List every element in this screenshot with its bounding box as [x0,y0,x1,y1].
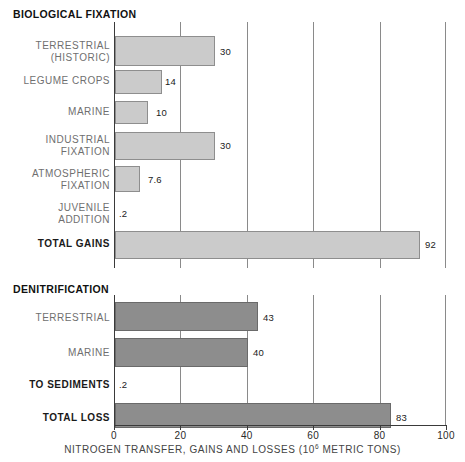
bar-value-label: 14 [165,76,176,87]
x-axis-tick-label: 20 [175,430,187,441]
bar-row-label: ATMOSPHERIC FIXATION [0,168,110,191]
bar-terrestrial-historic [115,36,215,66]
bar-legume-crops [115,70,162,94]
bar-row-label: MARINE [0,347,110,359]
bar-value-label: 30 [220,140,231,151]
section-header-biological-fixation: BIOLOGICAL FIXATION [13,8,137,20]
gridline-100 [445,295,446,425]
bar-terrestrial-denitrification [115,302,258,331]
x-axis-tick-label: 100 [437,430,455,441]
section-header-denitrification: DENITRIFICATION [13,283,109,295]
bar-total-gains [115,231,420,259]
bar-row-label: TERRESTRIAL (HISTORIC) [0,40,110,63]
bar-value-label: 92 [425,239,436,250]
gridline-100 [445,22,446,268]
bar-industrial-fixation [115,132,215,160]
bar-marine-denitrification [115,338,248,367]
panel-biological-fixation: TERRESTRIAL (HISTORIC) 30 LEGUME CROPS 1… [0,22,465,268]
bar-value-label: .2 [119,379,127,390]
bar-row-label: JUVENILE ADDITION [0,202,110,225]
bar-value-label: 43 [263,312,274,323]
bar-value-label: 7.6 [148,174,162,185]
panel-denitrification: TERRESTRIAL 43 MARINE 40 TO SEDIMENTS .2… [0,295,465,425]
bar-juvenile-addition [115,202,116,222]
x-axis-tick-label: 40 [241,430,253,441]
bar-value-label: 83 [396,412,407,423]
x-axis-title: NITROGEN TRANSFER, GAINS AND LOSSES (106… [0,443,465,455]
bar-row-label: TERRESTRIAL [0,312,110,324]
bar-row-label: TO SEDIMENTS [0,379,110,391]
x-axis-line [114,425,446,426]
bar-value-label: 10 [156,107,167,118]
x-axis-title-suffix: METRIC TONS) [319,444,401,455]
bar-atmospheric-fixation [115,166,140,192]
x-axis-tick-label: 80 [374,430,386,441]
x-axis-tick-label: 60 [307,430,319,441]
bar-value-label: 30 [220,46,231,57]
bar-to-sediments [115,375,116,393]
bar-value-label: .2 [119,208,127,219]
bar-value-label: 40 [253,347,264,358]
bar-row-label: INDUSTRIAL FIXATION [0,134,110,157]
bar-row-label: LEGUME CROPS [0,75,110,87]
bar-row-label: TOTAL LOSS [0,412,110,424]
bar-row-label: MARINE [0,106,110,118]
bar-row-label: TOTAL GAINS [0,238,110,250]
x-axis-tick-label: 0 [111,430,117,441]
bar-marine [115,101,148,124]
x-axis-title-prefix: NITROGEN TRANSFER, GAINS AND LOSSES (10 [64,444,315,455]
nitrogen-budget-bar-chart: BIOLOGICAL FIXATION TERRESTRIAL (HISTORI… [0,0,465,462]
